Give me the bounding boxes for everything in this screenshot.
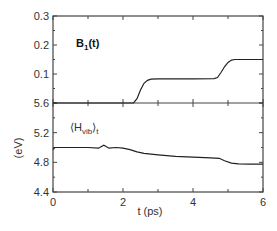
x-tick-label: 0: [50, 196, 56, 208]
x-tick-label: 2: [120, 196, 126, 208]
b1-line: [53, 60, 263, 104]
y-tick-label: 0.3: [34, 10, 49, 22]
y-tick-label: 4.4: [34, 186, 49, 198]
y-tick-label: 0.2: [34, 39, 49, 51]
y-tick-label: 5.6: [34, 97, 49, 109]
x-tick-label: 4: [190, 196, 196, 208]
y-tick-label: 5.2: [34, 127, 49, 139]
tick-labels: 5.60.10.20.34.44.85.20246: [34, 10, 266, 208]
y-axis-label: (eV): [12, 138, 24, 159]
chart: 5.60.10.20.34.44.85.20246 B1(t) ⟨Hvib⟩t …: [0, 0, 277, 231]
y-tick-label: 0.1: [34, 68, 49, 80]
y-tick-label: 4.8: [34, 156, 49, 168]
x-tick-label: 6: [260, 196, 266, 208]
top-panel-label: B1(t): [76, 37, 100, 52]
bottom-panel-label: ⟨Hvib⟩t: [70, 121, 99, 136]
x-axis-label: t (ps): [137, 205, 162, 217]
hvib-line: [53, 145, 263, 164]
